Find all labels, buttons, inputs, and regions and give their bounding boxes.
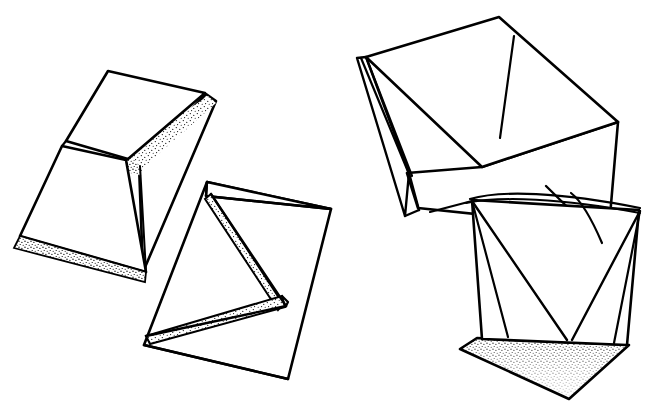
crease-right-hinge <box>126 159 128 160</box>
figure-root <box>0 0 659 418</box>
crease-left-notch <box>206 182 207 196</box>
paper-folding-diagram <box>0 0 659 418</box>
